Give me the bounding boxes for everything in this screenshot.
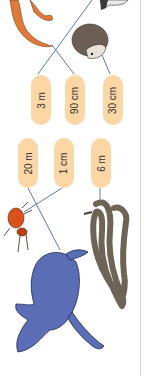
match-line-whale-20m [28, 188, 60, 250]
whale-icon [16, 250, 104, 352]
size-label-text: 90 cm [70, 86, 81, 113]
size-label-3m[interactable]: 3 m [31, 75, 51, 125]
size-label-1cm[interactable]: 1 cm [54, 138, 74, 188]
snake-icon [84, 202, 126, 306]
badger-icon [100, 0, 128, 10]
match-line-fox-90cm [52, 45, 74, 74]
size-label-30cm[interactable]: 30 cm [103, 75, 123, 125]
size-label-20m[interactable]: 20 m [18, 138, 38, 188]
size-label-text: 6 m [95, 155, 106, 172]
size-label-6m[interactable]: 6 m [91, 138, 111, 188]
size-label-text: 20 m [23, 152, 34, 174]
size-label-text: 1 cm [59, 152, 70, 174]
matching-worksheet: 3 m 90 cm 30 cm 20 m 1 cm 6 m [0, 0, 144, 376]
size-label-90cm[interactable]: 90 cm [65, 75, 85, 125]
fox-icon [10, 0, 53, 47]
size-label-text: 3 m [35, 92, 46, 109]
size-label-text: 30 cm [108, 86, 119, 113]
hedgehog-icon [72, 24, 108, 59]
illustration-layer [0, 0, 144, 376]
match-line-hedgehog-30cm [102, 55, 110, 74]
